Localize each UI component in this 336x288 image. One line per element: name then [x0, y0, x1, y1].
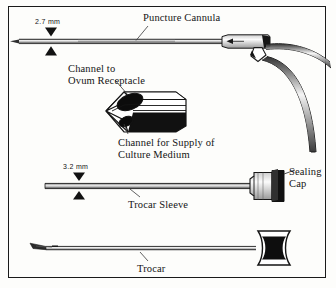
cannula-distal-tip — [10, 39, 19, 43]
part-cannula-tip-detail — [106, 80, 186, 134]
part-trocar-sleeve — [45, 169, 295, 202]
label-channel-to-ovum-receptacle: Channel to Ovum Receptacle — [68, 63, 145, 87]
trocar-handle-waist — [272, 243, 276, 253]
dim-arrow-32-top — [73, 173, 85, 182]
dim-arrow-27-bottom — [45, 46, 57, 55]
label-trocar: Trocar — [137, 263, 166, 275]
illustration-stage: Puncture Cannula Channel to Ovum Recepta… — [0, 0, 336, 288]
cannula-tube-b — [262, 57, 316, 153]
sleeve-hub — [250, 173, 272, 200]
label-channel-for-supply-of-culture-medium: Channel for Supply of Culture Medium — [118, 137, 215, 161]
label-trocar-sleeve: Trocar Sleeve — [128, 199, 188, 211]
label-dimension-cannula-diameter: 2.7 mm — [35, 18, 60, 26]
label-puncture-cannula: Puncture Cannula — [143, 12, 220, 24]
label-dimension-sleeve-diameter: 3.2 mm — [63, 163, 88, 171]
leader-puncture-cannula — [136, 26, 148, 41]
leader-trocar-sleeve — [130, 189, 140, 197]
sleeve-shaft — [45, 183, 250, 188]
part-puncture-cannula — [10, 26, 331, 152]
part-trocar — [30, 231, 292, 265]
label-sealing-cap: Sealing Cap — [289, 166, 322, 190]
dim-arrow-27-top — [45, 28, 57, 37]
tip-lower-dark-band — [128, 113, 186, 133]
dim-arrow-32-bottom — [73, 191, 85, 200]
leader-trocar — [140, 252, 148, 261]
figure-root: Puncture Cannula Channel to Ovum Recepta… — [0, 0, 336, 288]
trocar-shaft — [46, 246, 256, 249]
sealing-cap-highlight — [272, 169, 278, 202]
